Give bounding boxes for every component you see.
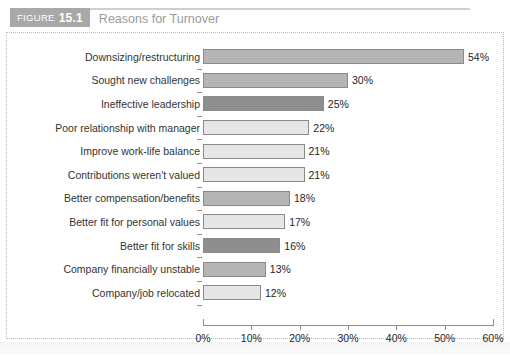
x-axis-tick-label: 30% <box>337 332 358 344</box>
x-axis-tick <box>300 325 301 330</box>
bar-category-label: Company financially unstable <box>0 263 200 275</box>
bar-row: Company financially unstable13% <box>7 257 505 281</box>
figure-badge-label: FIGURE <box>17 12 55 23</box>
bar-zone: 25% <box>203 92 493 116</box>
y-axis-tick <box>197 305 202 306</box>
chart-frame: Downsizing/restructuring54%Sought new ch… <box>6 32 504 339</box>
bar-value-label: 25% <box>328 98 349 110</box>
bar-category-label: Downsizing/restructuring <box>0 51 200 63</box>
bar-zone: 16% <box>203 234 493 258</box>
x-axis-tick <box>445 325 446 330</box>
x-axis-tick-label: 10% <box>241 332 262 344</box>
bar-zone: 30% <box>203 69 493 93</box>
bar <box>203 262 266 277</box>
bar-value-label: 12% <box>265 287 286 299</box>
bar-zone: 12% <box>203 281 493 305</box>
x-axis-tick-label: 60% <box>482 332 503 344</box>
bar-zone: 21% <box>203 139 493 163</box>
bar-zone: 22% <box>203 116 493 140</box>
figure-number-badge: FIGURE 15.1 <box>10 8 90 27</box>
bar-row: Contributions weren't valued21% <box>7 163 505 187</box>
bar <box>203 238 280 253</box>
bar-value-label: 18% <box>294 192 315 204</box>
bar-value-label: 30% <box>352 74 373 86</box>
bar-category-label: Better compensation/benefits <box>0 192 200 204</box>
bar <box>203 120 309 135</box>
bar-zone: 17% <box>203 210 493 234</box>
bar <box>203 191 290 206</box>
bar-category-label: Better fit for skills <box>0 240 200 252</box>
bar-value-label: 13% <box>270 263 291 275</box>
figure-title-rule: Reasons for Turnover <box>90 8 470 27</box>
bar-row: Better fit for skills16% <box>7 234 505 258</box>
bar <box>203 96 324 111</box>
bar-row: Improve work-life balance21% <box>7 139 505 163</box>
x-axis-tick-label: 0% <box>195 332 210 344</box>
bar-category-label: Contributions weren't valued <box>0 169 200 181</box>
bar-rows: Downsizing/restructuring54%Sought new ch… <box>7 45 505 305</box>
bar-chart: Downsizing/restructuring54%Sought new ch… <box>7 33 505 338</box>
figure-badge-number: 15.1 <box>59 11 83 25</box>
x-axis-tick-label: 20% <box>289 332 310 344</box>
bar-zone: 21% <box>203 163 493 187</box>
bar-row: Sought new challenges30% <box>7 69 505 93</box>
bar <box>203 214 285 229</box>
x-axis-tick-label: 50% <box>434 332 455 344</box>
x-axis-tick <box>348 325 349 330</box>
bar-value-label: 21% <box>309 145 330 157</box>
bar-row: Company/job relocated12% <box>7 281 505 305</box>
bar-zone: 54% <box>203 45 493 69</box>
bar-row: Poor relationship with manager22% <box>7 116 505 140</box>
bar-row: Ineffective leadership25% <box>7 92 505 116</box>
x-axis-tick <box>251 325 252 330</box>
figure-header: FIGURE 15.1 Reasons for Turnover <box>10 8 470 27</box>
bar-zone: 13% <box>203 257 493 281</box>
bar-row: Better compensation/benefits18% <box>7 187 505 211</box>
bar-value-label: 22% <box>313 122 334 134</box>
bar <box>203 167 305 182</box>
x-axis-right-cap <box>493 319 494 326</box>
bar <box>203 144 305 159</box>
bar-row: Downsizing/restructuring54% <box>7 45 505 69</box>
x-axis-tick-label: 40% <box>386 332 407 344</box>
bar-value-label: 21% <box>309 169 330 181</box>
bar-value-label: 17% <box>289 216 310 228</box>
x-axis-left-cap <box>203 319 204 326</box>
figure-title: Reasons for Turnover <box>99 12 219 26</box>
bar-zone: 18% <box>203 187 493 211</box>
bar-category-label: Improve work-life balance <box>0 145 200 157</box>
bar <box>203 49 464 64</box>
bar-category-label: Company/job relocated <box>0 287 200 299</box>
bar-category-label: Better fit for personal values <box>0 216 200 228</box>
bar-category-label: Poor relationship with manager <box>0 122 200 134</box>
bar-value-label: 16% <box>284 240 305 252</box>
bar <box>203 73 348 88</box>
bar-category-label: Ineffective leadership <box>0 98 200 110</box>
bar-value-label: 54% <box>468 51 489 63</box>
bar-category-label: Sought new challenges <box>0 74 200 86</box>
bar <box>203 285 261 300</box>
x-axis-tick <box>396 325 397 330</box>
bar-row: Better fit for personal values17% <box>7 210 505 234</box>
